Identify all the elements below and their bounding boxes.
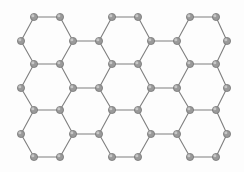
lattice-node — [56, 60, 63, 67]
lattice-node — [212, 106, 219, 113]
lattice-node-highlight — [187, 61, 190, 64]
lattice-node — [223, 130, 230, 137]
lattice-node-body — [186, 153, 193, 160]
lattice-node — [56, 106, 63, 113]
lattice-node-highlight — [187, 107, 190, 110]
lattice-node-body — [134, 106, 141, 113]
lattice-node — [17, 130, 24, 137]
lattice-node-highlight — [213, 61, 216, 64]
lattice-node — [30, 13, 37, 20]
lattice-node-highlight — [148, 131, 151, 134]
lattice-node — [212, 153, 219, 160]
lattice-node-highlight — [135, 14, 138, 17]
lattice-node — [223, 37, 230, 44]
lattice-node-body — [134, 60, 141, 67]
lattice-node — [147, 84, 154, 91]
lattice-node-highlight — [109, 154, 112, 157]
lattice-node — [69, 130, 76, 137]
lattice-node-highlight — [135, 61, 138, 64]
lattice-node — [30, 106, 37, 113]
lattice-node — [95, 130, 102, 137]
lattice-node-body — [134, 153, 141, 160]
lattice-node-highlight — [148, 38, 151, 41]
lattice-node-body — [95, 84, 102, 91]
lattice-node-highlight — [57, 14, 60, 17]
lattice-node — [56, 153, 63, 160]
lattice-node-highlight — [213, 154, 216, 157]
lattice-node-highlight — [224, 38, 227, 41]
lattice-node-highlight — [96, 131, 99, 134]
lattice-node-body — [186, 106, 193, 113]
lattice-node — [108, 153, 115, 160]
lattice-node — [134, 60, 141, 67]
lattice-node-highlight — [31, 154, 34, 157]
lattice-node — [69, 84, 76, 91]
lattice-node-highlight — [174, 131, 177, 134]
lattice-node-body — [108, 60, 115, 67]
lattice-node — [186, 60, 193, 67]
lattice-node-body — [56, 153, 63, 160]
lattice-node — [30, 60, 37, 67]
lattice-node-body — [147, 84, 154, 91]
lattice-node — [30, 153, 37, 160]
lattice-node — [134, 13, 141, 20]
lattice-node — [108, 60, 115, 67]
lattice-node-body — [95, 37, 102, 44]
lattice-node-highlight — [213, 14, 216, 17]
lattice-node — [173, 84, 180, 91]
lattice-node — [17, 84, 24, 91]
lattice-node-highlight — [135, 154, 138, 157]
lattice-node-highlight — [148, 85, 151, 88]
lattice-node-highlight — [18, 131, 21, 134]
lattice-node-highlight — [213, 107, 216, 110]
lattice-node-body — [147, 37, 154, 44]
lattice-node-body — [173, 130, 180, 137]
lattice-canvas — [0, 0, 244, 172]
lattice-node-highlight — [174, 85, 177, 88]
lattice-node-body — [30, 60, 37, 67]
lattice-node-body — [186, 60, 193, 67]
lattice-node — [186, 13, 193, 20]
lattice-node — [69, 37, 76, 44]
lattice-node-body — [212, 153, 219, 160]
lattice-node-body — [30, 153, 37, 160]
lattice-node-body — [69, 130, 76, 137]
lattice-node-highlight — [96, 38, 99, 41]
lattice-node — [186, 153, 193, 160]
lattice-node-body — [30, 106, 37, 113]
lattice-node-highlight — [57, 61, 60, 64]
lattice-node — [17, 37, 24, 44]
lattice-node-body — [173, 37, 180, 44]
figure-background — [0, 0, 244, 172]
lattice-node-body — [212, 13, 219, 20]
lattice-node-highlight — [31, 61, 34, 64]
lattice-node-body — [69, 84, 76, 91]
lattice-node-highlight — [109, 14, 112, 17]
lattice-node-body — [17, 84, 24, 91]
lattice-node-highlight — [31, 107, 34, 110]
lattice-node — [134, 153, 141, 160]
lattice-node — [108, 13, 115, 20]
lattice-node-body — [223, 130, 230, 137]
lattice-node — [186, 106, 193, 113]
lattice-node-highlight — [96, 85, 99, 88]
lattice-node — [212, 13, 219, 20]
lattice-node — [147, 130, 154, 137]
lattice-node-body — [223, 84, 230, 91]
lattice-node — [223, 84, 230, 91]
lattice-node-body — [56, 106, 63, 113]
lattice-node — [147, 37, 154, 44]
lattice-node-highlight — [70, 131, 73, 134]
lattice-node-highlight — [187, 14, 190, 17]
lattice-node-highlight — [224, 85, 227, 88]
lattice-node-body — [212, 106, 219, 113]
lattice-node-body — [147, 130, 154, 137]
lattice-node-highlight — [18, 85, 21, 88]
lattice-node-highlight — [70, 38, 73, 41]
lattice-node-body — [108, 13, 115, 20]
lattice-node-highlight — [18, 38, 21, 41]
lattice-node-body — [108, 153, 115, 160]
lattice-node-body — [69, 37, 76, 44]
lattice-node-highlight — [109, 61, 112, 64]
lattice-node — [56, 13, 63, 20]
